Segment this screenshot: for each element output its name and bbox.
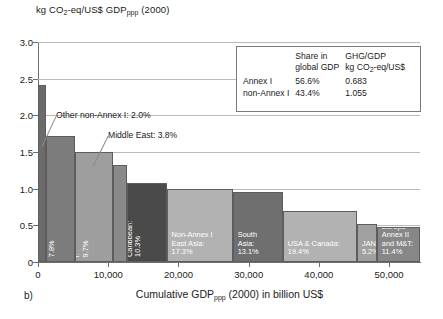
- panel-label: b): [24, 290, 33, 301]
- x-tick-label: 50,000: [375, 269, 404, 280]
- y-axis-title-pre: kg CO: [36, 4, 63, 15]
- bar-label: Non-Annex I East Asia: 17.3%: [172, 231, 213, 257]
- x-axis-title-sub-ppp: ppp: [214, 294, 226, 301]
- y-tick-mark: [33, 225, 38, 226]
- bar-label: Africa: 7.8%: [46, 236, 57, 257]
- x-tick-label: 40,000: [304, 269, 333, 280]
- bar-label: Europe Annex II and M&T: 11.4%: [382, 227, 420, 257]
- x-axis-title-post: (2000) in billion US$: [226, 288, 323, 300]
- bar-label: JANZ: 5.2%: [362, 240, 377, 257]
- y-tick-label: 0: [5, 257, 33, 268]
- y-tick-label: 1.0: [5, 183, 33, 194]
- legend-header-intensity: GHG/GDPkg CO2-eq/US$: [345, 51, 411, 76]
- x-tick-label: 20,000: [164, 269, 193, 280]
- y-tick-mark: [33, 189, 38, 190]
- bar-usa-canada: USA & Canada: 19.4%: [283, 211, 357, 262]
- y-tick-mark: [33, 79, 38, 80]
- x-tick-label: 0: [35, 269, 40, 280]
- y-tick-label: 3.0: [5, 37, 33, 48]
- x-axis-line: [38, 262, 421, 263]
- figure-panel-b: kg CO2-eq/US$ GDPppp (2000) Africa: 7.8%…: [0, 0, 443, 319]
- bar-africa: Africa: 7.8%: [46, 136, 76, 262]
- y-axis-ticks: 00.51.01.52.02.53.0: [0, 0, 33, 319]
- bar-middle-east: [113, 165, 128, 262]
- annotation-label: Middle East: 3.8%: [108, 130, 177, 140]
- y-tick-label: 2.0: [5, 110, 33, 121]
- x-tick-mark: [249, 262, 250, 267]
- bar-janz: JANZ: 5.2%: [357, 224, 377, 262]
- legend-row-intensity: 1.055: [345, 88, 411, 100]
- bar-latin-america-caribbean: Latin America & Caribbean: 10.3%: [127, 183, 166, 262]
- bar-non-annex-i-east-asia: Non-Annex I East Asia: 17.3%: [167, 189, 233, 262]
- bar-label: USA & Canada: 19.4%: [288, 240, 340, 257]
- x-tick-mark: [178, 262, 179, 267]
- legend-header-share: Share inglobal GDP: [295, 51, 345, 76]
- bar-label: Latin America & Caribbean: 10.3%: [127, 221, 142, 257]
- x-axis-title-pre: Cumulative GDP: [136, 288, 214, 300]
- bar-eit-annex-i: EIT Annex I: 9.7%: [75, 152, 112, 262]
- y-tick-mark: [33, 152, 38, 153]
- legend-row-label: Annex I: [243, 76, 295, 88]
- legend-row-intensity: 0.683: [345, 76, 411, 88]
- legend-header-row: Share inglobal GDP GHG/GDPkg CO2-eq/US$: [243, 51, 411, 76]
- legend-header-blank: [243, 51, 295, 76]
- legend-table-grid: Share inglobal GDP GHG/GDPkg CO2-eq/US$ …: [243, 51, 411, 99]
- annotation-label: Other non-Annex I: 2.0%: [56, 110, 151, 120]
- y-axis-title-mid: -eq/US$ GDP: [67, 4, 126, 15]
- legend-row-non-annex-i: non-Annex I 43.4% 1.055: [243, 88, 411, 100]
- x-tick-label: 10,000: [94, 269, 123, 280]
- bar-europe-annex-ii-and-m-t: Europe Annex II and M&T: 11.4%: [377, 227, 421, 262]
- x-tick-mark: [38, 262, 39, 267]
- bar-label: South Asia: 13.1%: [238, 231, 259, 257]
- legend-row-label: non-Annex I: [243, 88, 295, 100]
- legend-table: Share inglobal GDP GHG/GDPkg CO2-eq/US$ …: [236, 46, 421, 112]
- gridline: [38, 42, 420, 43]
- y-axis-title: kg CO2-eq/US$ GDPppp (2000): [36, 4, 169, 16]
- y-axis-title-post: (2000): [139, 4, 170, 15]
- y-axis-title-sub-ppp: ppp: [127, 9, 139, 16]
- y-tick-label: 0.5: [5, 220, 33, 231]
- y-tick-mark: [33, 42, 38, 43]
- y-tick-label: 1.5: [5, 147, 33, 158]
- x-tick-mark: [389, 262, 390, 267]
- x-tick-label: 30,000: [234, 269, 263, 280]
- legend-row-share: 43.4%: [295, 88, 345, 100]
- y-tick-mark: [33, 115, 38, 116]
- bar-other-non-annex-i: [38, 85, 46, 262]
- x-tick-mark: [108, 262, 109, 267]
- bar-south-asia: South Asia: 13.1%: [233, 192, 283, 262]
- legend-row-share: 56.6%: [295, 76, 345, 88]
- y-tick-label: 2.5: [5, 73, 33, 84]
- legend-row-annex-i: Annex I 56.6% 0.683: [243, 76, 411, 88]
- x-axis-title: Cumulative GDPppp (2000) in billion US$: [38, 288, 421, 301]
- bar-label: EIT Annex I: 9.7%: [75, 235, 89, 257]
- x-tick-mark: [319, 262, 320, 267]
